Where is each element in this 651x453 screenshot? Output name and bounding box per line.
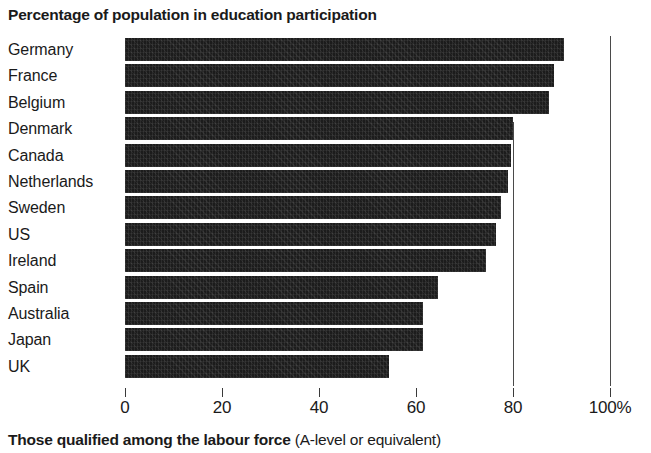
category-label-denmark: Denmark	[8, 121, 72, 137]
x-tick-label-0: 0	[120, 399, 129, 417]
x-axis: 020406080100%	[0, 388, 651, 428]
category-label-spain: Spain	[8, 280, 48, 296]
category-label-ireland: Ireland	[8, 253, 56, 269]
x-tick-100	[610, 388, 611, 397]
footer-caption: Those qualified among the labour force (…	[8, 431, 441, 449]
x-tick-80	[513, 388, 514, 397]
bar-france	[125, 64, 554, 87]
bar-denmark	[125, 117, 513, 140]
chart-title: Percentage of population in education pa…	[8, 6, 377, 24]
category-label-japan: Japan	[8, 332, 51, 348]
bar-belgium	[125, 91, 549, 114]
bar-japan	[125, 328, 423, 351]
category-label-us: US	[8, 227, 30, 243]
x-tick-label-40: 40	[310, 399, 329, 417]
x-tick-label-100: 100%	[589, 399, 632, 417]
footer-caption-bold: Those qualified among the labour force	[8, 431, 291, 448]
x-tick-label-20: 20	[213, 399, 232, 417]
category-label-uk: UK	[8, 359, 30, 375]
x-tick-20	[222, 388, 223, 397]
category-label-netherlands: Netherlands	[8, 174, 93, 190]
chart-figure: Percentage of population in education pa…	[0, 0, 651, 453]
x-tick-0	[125, 388, 126, 397]
category-label-belgium: Belgium	[8, 95, 65, 111]
bar-uk	[125, 355, 389, 378]
x-tick-60	[416, 388, 417, 397]
category-label-germany: Germany	[8, 42, 73, 58]
x-tick-40	[319, 388, 320, 397]
bar-us	[125, 223, 496, 246]
category-label-sweden: Sweden	[8, 200, 65, 216]
category-label-australia: Australia	[8, 306, 69, 322]
category-label-canada: Canada	[8, 148, 63, 164]
reference-line-80	[513, 122, 514, 386]
x-tick-label-60: 60	[407, 399, 426, 417]
bar-spain	[125, 276, 438, 299]
bar-canada	[125, 144, 511, 167]
bar-australia	[125, 302, 423, 325]
bar-germany	[125, 38, 564, 61]
bar-sweden	[125, 196, 501, 219]
footer-caption-regular: (A-level or equivalent)	[295, 431, 441, 448]
reference-line-100	[610, 36, 611, 386]
x-tick-label-80: 80	[504, 399, 523, 417]
bar-netherlands	[125, 170, 508, 193]
category-label-france: France	[8, 68, 57, 84]
plot-area: GermanyFranceBelgiumDenmarkCanadaNetherl…	[0, 36, 651, 388]
bar-ireland	[125, 249, 486, 272]
